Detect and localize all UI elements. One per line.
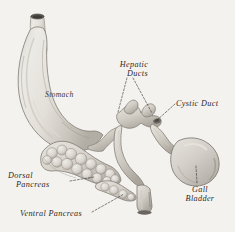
label-hepatic-ducts-line1: Hepatic	[120, 60, 148, 69]
label-cystic-duct-text: Cystic Duct	[176, 99, 218, 108]
esophageal-lumen	[33, 15, 42, 18]
label-gall-bladder-line2: Bladder	[177, 194, 223, 203]
pancreas-lobule	[96, 164, 106, 174]
pancreas-lobule	[52, 157, 62, 167]
label-dorsal-pancreas: Dorsal Pancreas	[8, 171, 70, 189]
label-ventral-pancreas: Ventral Pancreas	[20, 209, 82, 218]
ventral-lobule	[110, 186, 119, 195]
label-dorsal-pancreas-line2: Pancreas	[16, 180, 70, 189]
duodenum-highlight	[141, 190, 142, 209]
pancreas-lobule	[82, 169, 92, 179]
label-gall-bladder: Gall Bladder	[177, 185, 223, 203]
ventral-lobule	[119, 190, 127, 198]
pancreas-lobule	[86, 159, 97, 170]
label-cystic-duct: Cystic Duct	[176, 99, 218, 108]
ventral-lobule	[127, 193, 134, 200]
ventral-lobule	[101, 183, 109, 191]
label-stomach: Stomach	[45, 90, 74, 99]
pancreas-lobule	[61, 158, 72, 169]
pancreas-lobule	[65, 148, 76, 159]
label-hepatic-ducts: Hepatic Ducts	[108, 60, 160, 78]
label-ventral-pancreas-text: Ventral Pancreas	[20, 209, 82, 218]
pancreas-lobule	[43, 156, 52, 165]
label-hepatic-ducts-line2: Ducts	[115, 69, 160, 78]
label-gall-bladder-line1: Gall	[192, 185, 208, 194]
duodenum-cut-end	[137, 210, 151, 214]
label-stomach-text: Stomach	[45, 90, 74, 99]
anatomical-figure: Hepatic Ducts Cystic Duct Stomach Gall B…	[0, 0, 235, 232]
structure-duodenum	[137, 185, 152, 215]
pancreas-lobule	[72, 164, 83, 175]
label-dorsal-pancreas-line1: Dorsal	[8, 171, 33, 180]
pancreas-lobule	[75, 153, 87, 165]
pancreas-lobule	[92, 173, 102, 183]
